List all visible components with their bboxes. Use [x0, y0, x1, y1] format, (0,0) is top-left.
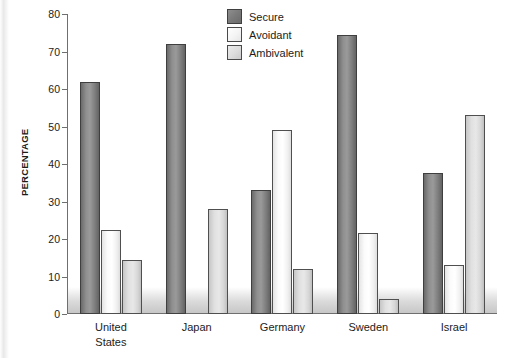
y-tick-mark	[62, 314, 67, 315]
y-tick-label: 30	[48, 196, 60, 208]
bar-avoidant[interactable]	[272, 130, 292, 314]
bar-avoidant[interactable]	[444, 265, 464, 314]
bar-ambivalent[interactable]	[379, 299, 399, 314]
bar-group	[411, 14, 497, 314]
bar-ambivalent[interactable]	[208, 209, 228, 314]
bar-avoidant[interactable]	[101, 230, 121, 314]
legend-item-avoidant: Avoidant	[227, 27, 303, 42]
bar-avoidant[interactable]	[358, 233, 378, 314]
legend-swatch-ambivalent-icon	[227, 45, 242, 60]
legend-item-ambivalent: Ambivalent	[227, 45, 303, 60]
y-tick-label: 80	[48, 8, 60, 20]
x-category-label: Japan	[154, 320, 240, 335]
y-tick-mark	[62, 164, 67, 165]
y-tick-label: 10	[48, 271, 60, 283]
y-tick-mark	[62, 89, 67, 90]
scan-edge-artifact	[0, 0, 9, 358]
legend-label-avoidant: Avoidant	[249, 29, 292, 41]
x-category-label: Sweden	[325, 320, 411, 335]
x-category-label: United States	[68, 320, 154, 350]
bar-ambivalent[interactable]	[293, 269, 313, 314]
bar-secure[interactable]	[80, 82, 100, 315]
bar-secure[interactable]	[251, 190, 271, 314]
y-tick-label: 50	[48, 121, 60, 133]
chart-legend: Secure Avoidant Ambivalent	[227, 9, 303, 60]
y-tick-mark	[62, 52, 67, 53]
y-tick-mark	[62, 277, 67, 278]
y-tick-label: 40	[48, 158, 60, 170]
y-tick-mark	[62, 14, 67, 15]
bar-secure[interactable]	[423, 173, 443, 314]
y-tick-label: 60	[48, 83, 60, 95]
bar-secure[interactable]	[166, 44, 186, 314]
bar-ambivalent[interactable]	[122, 260, 142, 314]
legend-swatch-avoidant-icon	[227, 27, 242, 42]
y-tick-label: 70	[48, 46, 60, 58]
y-axis-title: PERCENTAGE	[19, 116, 33, 208]
bar-ambivalent[interactable]	[465, 115, 485, 314]
y-tick-mark	[62, 127, 67, 128]
y-tick-label: 20	[48, 233, 60, 245]
bar-chart: PERCENTAGE 01020304050607080 United Stat…	[0, 0, 509, 358]
legend-label-secure: Secure	[249, 11, 284, 23]
legend-item-secure: Secure	[227, 9, 303, 24]
x-category-label: Germany	[240, 320, 326, 335]
bar-group	[68, 14, 154, 314]
x-category-label: Israel	[411, 320, 497, 335]
y-tick-mark	[62, 202, 67, 203]
y-tick-mark	[62, 239, 67, 240]
bar-group	[325, 14, 411, 314]
legend-label-ambivalent: Ambivalent	[249, 47, 303, 59]
y-tick-label: 0	[54, 308, 60, 320]
legend-swatch-secure-icon	[227, 9, 242, 24]
bar-secure[interactable]	[337, 35, 357, 314]
